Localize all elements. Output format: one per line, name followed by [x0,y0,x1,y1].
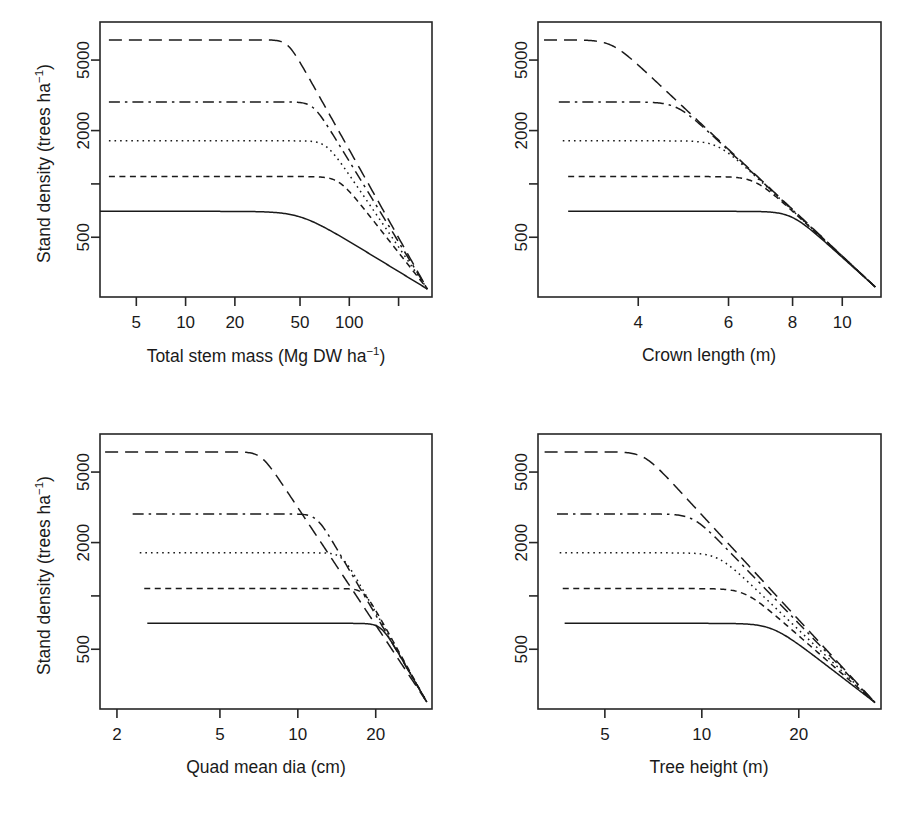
series-curve-dashdot [559,102,875,287]
x-tick-label: 8 [788,313,797,332]
x-axis-title: Crown length (m) [260,345,898,366]
series-curve-solid [147,623,426,702]
series-curve-shortdash [144,589,427,702]
x-tick-label: 6 [724,313,733,332]
y-axis-title-text: Stand density (trees ha [34,83,54,263]
plot-frame [100,434,432,709]
panel-quad-mean-dia: 25102050002000500 [30,420,472,805]
series-curve-dashdot [109,102,428,289]
figure-canvas: 510205010050002000500Total stem mass (Mg… [0,0,898,814]
plot-frame [538,22,881,297]
panel-tree-height: 5102050002000500 [468,420,898,805]
y-axis-title-text: Stand density (trees ha [34,495,54,675]
y-tick-label: 5000 [75,41,94,79]
panel-crown-length: 4681050002000500 [468,8,898,393]
x-tick-label: 10 [833,313,852,332]
series-curve-solid [100,211,427,289]
plot-frame [100,22,432,297]
y-tick-label: 500 [75,635,94,663]
y-tick-label: 2000 [513,524,532,562]
series-curve-dotted [560,553,875,703]
x-tick-label: 50 [291,313,310,332]
y-axis-title: Stand density (trees ha−1) [33,64,55,263]
series-curve-solid [568,211,875,287]
x-tick-label: 2 [112,725,121,744]
series-curve-shortdash [109,177,428,289]
series-curve-dotted [563,141,876,287]
series-curve-longdash [105,452,427,702]
x-tick-label: 5 [215,725,224,744]
panel-total-stem-mass: 510205010050002000500 [30,8,472,393]
x-axis-title-text: Tree height (m) [650,757,769,777]
x-tick-label: 4 [634,313,643,332]
y-axis-title-superscript: −1 [33,481,45,494]
x-tick-label: 20 [225,313,244,332]
y-axis-title-tail: ) [34,476,54,482]
series-curve-dotted [109,141,428,289]
y-tick-label: 500 [75,223,94,251]
y-axis-title-superscript: −1 [33,69,45,82]
x-tick-label: 5 [600,725,609,744]
y-tick-label: 5000 [75,453,94,491]
y-tick-label: 5000 [513,453,532,491]
series-curve-shortdash [568,177,875,287]
y-axis-title: Stand density (trees ha−1) [33,476,55,675]
x-tick-label: 10 [176,313,195,332]
series-curve-dashdot [557,514,875,703]
x-tick-label: 5 [132,313,141,332]
y-tick-label: 2000 [75,112,94,150]
y-tick-label: 500 [513,635,532,663]
series-curve-longdash [109,40,428,289]
x-tick-label: 20 [366,725,385,744]
x-tick-label: 10 [692,725,711,744]
x-tick-label: 100 [335,313,363,332]
series-curve-longdash [544,40,875,287]
series-curve-shortdash [563,589,875,703]
x-axis-title-text: Crown length (m) [642,345,776,365]
y-tick-label: 5000 [513,41,532,79]
x-tick-label: 10 [288,725,307,744]
y-tick-label: 2000 [75,524,94,562]
y-tick-label: 500 [513,223,532,251]
y-axis-title-tail: ) [34,64,54,70]
y-tick-label: 2000 [513,112,532,150]
series-curve-dashdot [133,514,427,702]
series-curve-solid [565,623,875,702]
x-axis-title: Tree height (m) [260,757,898,778]
x-tick-label: 20 [789,725,808,744]
